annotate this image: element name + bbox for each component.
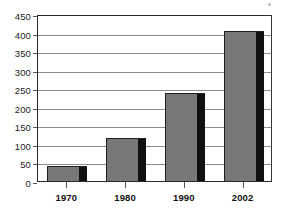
y-axis-label: 150 [15,122,31,133]
bar-group [106,16,146,181]
bar [47,166,87,181]
x-axis-label: 2002 [232,192,254,203]
y-axis-label: 50 [20,159,31,170]
y-axis-label: 300 [15,66,31,77]
x-axis-tick [243,182,244,188]
bar-group [224,16,264,181]
y-axis-label: 100 [15,140,31,151]
bar-body [224,31,256,181]
bar-chart: 050100150200250300350400450 197019801990… [0,0,286,221]
y-axis-tick [33,35,37,36]
y-axis-tick [33,164,37,165]
x-axis-label: 1990 [173,192,195,203]
y-axis-label: 400 [15,29,31,40]
y-axis-label: 350 [15,48,31,59]
scan-artifact-speck [268,3,271,6]
x-axis-tick [184,182,185,188]
bar-body [165,93,197,181]
y-axis-tick [33,127,37,128]
y-axis-tick [33,146,37,147]
y-axis-tick [33,183,37,184]
x-axis-label: 1980 [114,192,136,203]
x-axis-tick [125,182,126,188]
x-axis-tick [66,182,67,188]
x-axis-label: 1970 [55,192,77,203]
bar [165,93,205,181]
bar [224,31,264,181]
y-axis-tick [33,16,37,17]
bar-body [106,138,138,181]
plot-area: 050100150200250300350400450 [37,15,272,182]
bar [106,138,146,181]
y-axis-label: 0 [26,178,31,189]
y-axis-label: 200 [15,103,31,114]
bar-group [165,16,205,181]
y-axis-tick [33,53,37,54]
bar-shadow-edge [138,138,146,181]
y-axis-label: 450 [15,11,31,22]
bar-shadow-edge [197,93,205,181]
y-axis-tick [33,109,37,110]
y-axis-tick [33,90,37,91]
bar-body [47,166,79,181]
bar-group [47,16,87,181]
y-axis-label: 250 [15,85,31,96]
y-axis-tick [33,72,37,73]
bar-shadow-edge [256,31,264,181]
bar-shadow-edge [79,166,87,181]
